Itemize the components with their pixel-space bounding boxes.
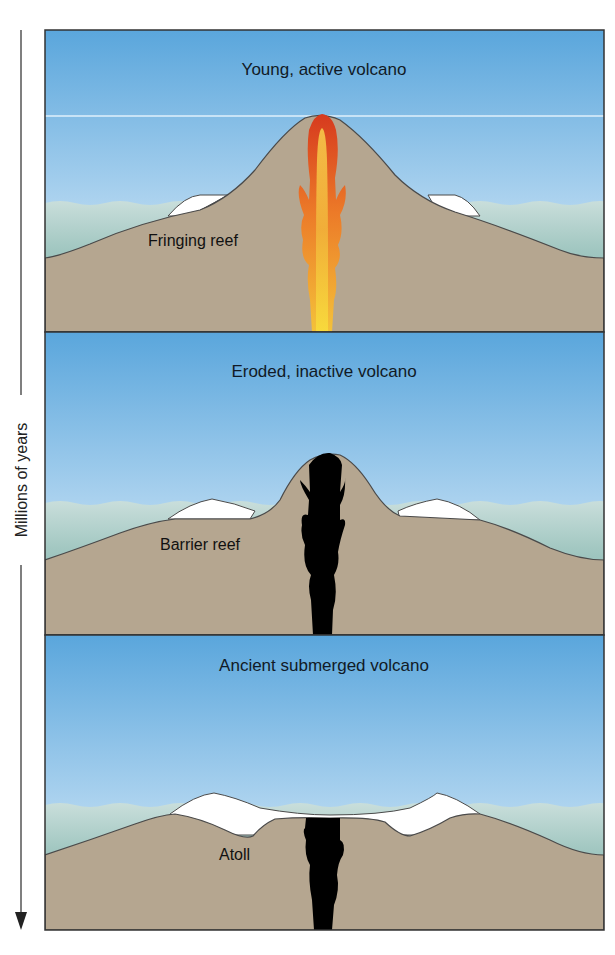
- time-axis-label: Millions of years: [13, 423, 30, 538]
- panel-title: Eroded, inactive volcano: [231, 362, 416, 381]
- panel-eroded-volcano: Eroded, inactive volcano Barrier reef: [45, 332, 615, 635]
- reef-formation-diagram: Millions of years Young, active volcano …: [0, 0, 615, 955]
- reef-label: Barrier reef: [160, 536, 241, 553]
- reef-label: Fringing reef: [148, 232, 238, 249]
- panel-title: Young, active volcano: [242, 60, 407, 79]
- panel-ancient-volcano: Ancient submerged volcano Atoll: [45, 635, 615, 930]
- panel-title: Ancient submerged volcano: [219, 656, 429, 675]
- magma-core: [316, 128, 328, 332]
- reef-label: Atoll: [219, 846, 250, 863]
- arrow-down-icon: [15, 912, 27, 930]
- time-axis: Millions of years: [13, 30, 30, 930]
- panel-young-volcano: Young, active volcano Fringing reef: [45, 30, 615, 332]
